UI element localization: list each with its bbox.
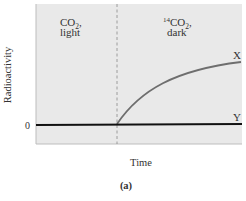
series-y-line	[36, 124, 242, 125]
x-axis-label: Time	[130, 157, 152, 168]
region-left-label-line2: light	[60, 26, 80, 38]
series-x-label: X	[233, 49, 241, 61]
y-axis-label: Radioactivity	[2, 46, 13, 103]
figure-caption: (a)	[120, 180, 133, 192]
region-right-label-line2: dark	[167, 26, 187, 38]
series-y-label: Y	[233, 111, 241, 123]
chart: CO2, light 14CO2, dark X Y 0 Radioactivi…	[0, 0, 246, 201]
y-tick-zero: 0	[25, 120, 30, 131]
